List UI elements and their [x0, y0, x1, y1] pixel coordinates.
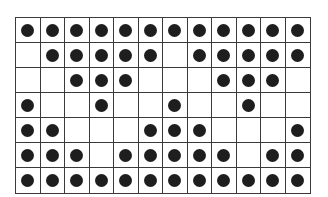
grid-cell — [41, 118, 66, 143]
dot-icon — [193, 149, 206, 162]
grid-cell — [212, 93, 237, 118]
dot-icon — [217, 149, 230, 162]
grid-cell — [188, 93, 213, 118]
grid-cell — [65, 143, 90, 168]
dot-icon — [144, 149, 157, 162]
dot-icon — [144, 49, 157, 62]
dot-icon — [119, 74, 132, 87]
grid-cell — [261, 168, 286, 193]
grid-cell — [188, 168, 213, 193]
grid-cell — [188, 118, 213, 143]
grid-cell — [114, 18, 139, 43]
dot-icon — [119, 149, 132, 162]
grid-cell — [286, 143, 311, 168]
grid-cell — [212, 18, 237, 43]
dot-icon — [46, 24, 59, 37]
dot-icon — [21, 24, 34, 37]
dot-icon — [266, 24, 279, 37]
grid-cell — [90, 68, 115, 93]
grid-cell — [65, 93, 90, 118]
grid-cell — [65, 68, 90, 93]
dot-icon — [70, 49, 83, 62]
dot-icon — [144, 24, 157, 37]
dot-icon — [168, 174, 181, 187]
grid-cell — [41, 68, 66, 93]
dot-icon — [193, 24, 206, 37]
grid-cell — [188, 43, 213, 68]
grid-cell — [212, 143, 237, 168]
grid-cell — [261, 43, 286, 68]
dot-icon — [70, 24, 83, 37]
grid-cell — [90, 168, 115, 193]
grid-cell — [188, 143, 213, 168]
grid-cell — [237, 43, 262, 68]
grid-cell — [41, 143, 66, 168]
dot-icon — [266, 74, 279, 87]
grid-cell — [163, 168, 188, 193]
grid-cell — [286, 68, 311, 93]
dot-icon — [168, 149, 181, 162]
grid-cell — [16, 118, 41, 143]
grid-cell — [41, 168, 66, 193]
grid-cell — [163, 68, 188, 93]
dot-grid — [15, 17, 311, 194]
grid-cell — [139, 168, 164, 193]
grid-cell — [261, 18, 286, 43]
dot-icon — [193, 49, 206, 62]
dot-icon — [242, 99, 255, 112]
grid-cell — [16, 168, 41, 193]
grid-cell — [114, 143, 139, 168]
grid-cell — [65, 43, 90, 68]
grid-cell — [114, 43, 139, 68]
dot-icon — [217, 49, 230, 62]
dot-icon — [242, 24, 255, 37]
grid-cell — [286, 168, 311, 193]
grid-cell — [261, 143, 286, 168]
grid-cell — [90, 118, 115, 143]
dot-icon — [266, 174, 279, 187]
dot-icon — [46, 149, 59, 162]
dot-icon — [242, 49, 255, 62]
dot-icon — [168, 24, 181, 37]
grid-cell — [16, 68, 41, 93]
grid-cell — [139, 43, 164, 68]
dot-icon — [21, 99, 34, 112]
dot-icon — [291, 174, 304, 187]
dot-icon — [95, 49, 108, 62]
grid-cell — [139, 18, 164, 43]
grid-cell — [139, 143, 164, 168]
dot-icon — [291, 149, 304, 162]
grid-cell — [139, 68, 164, 93]
grid-cell — [286, 18, 311, 43]
dot-icon — [242, 174, 255, 187]
dot-icon — [46, 124, 59, 137]
grid-cell — [41, 18, 66, 43]
grid-cell — [90, 143, 115, 168]
grid-cell — [16, 143, 41, 168]
grid-cell — [237, 143, 262, 168]
grid-cell — [16, 93, 41, 118]
grid-cell — [212, 68, 237, 93]
grid-cell — [16, 18, 41, 43]
dot-icon — [217, 24, 230, 37]
grid-cell — [237, 168, 262, 193]
grid-cell — [286, 43, 311, 68]
dot-icon — [266, 149, 279, 162]
dot-icon — [119, 174, 132, 187]
grid-cell — [163, 143, 188, 168]
grid-cell — [114, 93, 139, 118]
grid-cell — [163, 43, 188, 68]
grid-cell — [114, 168, 139, 193]
dot-icon — [21, 149, 34, 162]
grid-cell — [212, 118, 237, 143]
grid-cell — [90, 43, 115, 68]
dot-icon — [291, 24, 304, 37]
dot-icon — [95, 74, 108, 87]
grid-cell — [163, 118, 188, 143]
dot-icon — [193, 174, 206, 187]
grid-cell — [261, 118, 286, 143]
grid-cell — [237, 18, 262, 43]
dot-icon — [70, 149, 83, 162]
dot-icon — [291, 49, 304, 62]
dot-icon — [46, 174, 59, 187]
